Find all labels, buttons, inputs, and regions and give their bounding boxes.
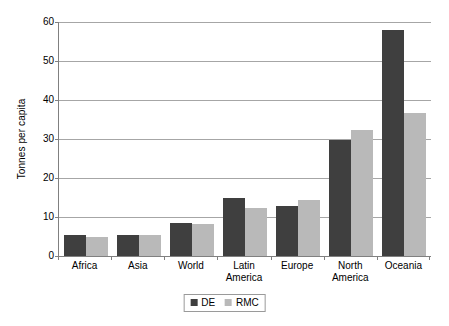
x-axis-label-line: Latin: [217, 260, 270, 272]
plot-area: 0102030405060: [58, 22, 431, 256]
bar-de: [64, 235, 86, 256]
x-axis-label-line: North: [324, 260, 377, 272]
legend-item-label: RMC: [236, 297, 259, 308]
bar-group: [170, 22, 214, 256]
x-axis-label: NorthAmerica: [324, 260, 377, 284]
bar-de: [117, 235, 139, 256]
x-axis-label: Africa: [58, 260, 111, 272]
y-axis-title: Tonnes per capita: [14, 22, 30, 256]
x-axis-label: Oceania: [377, 260, 430, 272]
chart-legend: DERMC: [183, 294, 266, 312]
bar-rmc: [404, 113, 426, 256]
x-axis-label: LatinAmerica: [217, 260, 270, 284]
x-axis-label: Asia: [111, 260, 164, 272]
bar-de: [329, 140, 351, 256]
x-axis-label-line: Europe: [271, 260, 324, 272]
x-axis-label: Europe: [271, 260, 324, 272]
x-axis-labels: AfricaAsiaWorldLatinAmericaEuropeNorthAm…: [58, 260, 430, 290]
x-axis-label-line: America: [324, 272, 377, 284]
bar-rmc: [192, 224, 214, 256]
bar-group: [223, 22, 267, 256]
bar-de: [170, 223, 192, 256]
x-axis-label: World: [164, 260, 217, 272]
bar-rmc: [351, 130, 373, 256]
bar-group: [329, 22, 373, 256]
y-tick-label: 20: [43, 173, 54, 183]
light-square-swatch: [225, 299, 232, 306]
y-tick-label: 50: [43, 56, 54, 66]
y-tick-label: 0: [48, 251, 54, 261]
bar-chart: Tonnes per capita 0102030405060 AfricaAs…: [0, 0, 449, 326]
bar-de: [223, 198, 245, 257]
x-axis-label-line: America: [217, 272, 270, 284]
legend-item[interactable]: DE: [190, 297, 215, 308]
y-tick-label: 40: [43, 95, 54, 105]
y-tick-label: 30: [43, 134, 54, 144]
bar-rmc: [86, 237, 108, 256]
bar-group: [276, 22, 320, 256]
bar-rmc: [298, 200, 320, 256]
bar-rmc: [245, 208, 267, 256]
bar-de: [276, 206, 298, 256]
bar-group: [64, 22, 108, 256]
bar-rmc: [139, 235, 161, 256]
y-tick-label: 60: [43, 17, 54, 27]
legend-item[interactable]: RMC: [225, 297, 259, 308]
legend-item-label: DE: [201, 297, 215, 308]
x-axis-label-line: Asia: [111, 260, 164, 272]
x-axis-label-line: World: [164, 260, 217, 272]
bar-de: [382, 30, 404, 256]
x-axis-label-line: Africa: [58, 260, 111, 272]
bar-group: [382, 22, 426, 256]
bar-group: [117, 22, 161, 256]
bars-layer: [59, 22, 431, 256]
y-tick-label: 10: [43, 212, 54, 222]
dark-square-swatch: [190, 299, 197, 306]
x-axis-label-line: Oceania: [377, 260, 430, 272]
